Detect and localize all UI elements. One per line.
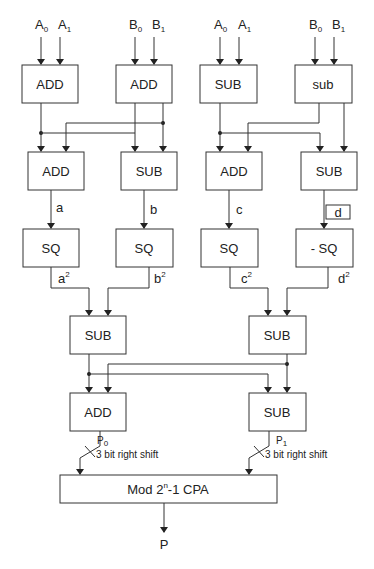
row5-add-block: ADD bbox=[70, 393, 126, 431]
svg-text:Mod 2n-1 CPA: Mod 2n-1 CPA bbox=[127, 481, 209, 497]
svg-text:a: a bbox=[56, 200, 64, 215]
svg-text:B1: B1 bbox=[152, 17, 166, 34]
diagram-canvas: A0 A1 B0 B1 A0 A1 B0 B1 ADD ADD SUB sub bbox=[0, 0, 374, 569]
svg-text:SQ: SQ bbox=[135, 241, 154, 256]
svg-text:SUB: SUB bbox=[316, 164, 343, 179]
row1-sub-b-block: sub bbox=[295, 65, 352, 103]
svg-text:SQ: SQ bbox=[220, 241, 239, 256]
svg-text:B0: B0 bbox=[129, 17, 143, 34]
svg-text:ADD: ADD bbox=[42, 164, 69, 179]
row2-add-a-block: ADD bbox=[28, 152, 84, 190]
svg-text:B1: B1 bbox=[332, 17, 346, 34]
svg-text:3 bit right shift: 3 bit right shift bbox=[265, 449, 327, 460]
svg-text:A0: A0 bbox=[35, 17, 49, 34]
svg-text:SUB: SUB bbox=[264, 405, 291, 420]
input-labels: A0 A1 B0 B1 A0 A1 B0 B1 bbox=[35, 17, 346, 34]
svg-text:SQ: SQ bbox=[42, 241, 61, 256]
svg-text:ADD: ADD bbox=[130, 77, 157, 92]
svg-text:d2: d2 bbox=[338, 270, 350, 286]
shift-tick-left bbox=[85, 446, 95, 457]
svg-text:b: b bbox=[150, 202, 157, 217]
row3-sq-a-block: SQ bbox=[23, 229, 79, 267]
row4-sub-right-block: SUB bbox=[249, 316, 306, 354]
svg-text:SUB: SUB bbox=[215, 77, 242, 92]
row3-sq-c-block: SQ bbox=[201, 229, 258, 267]
shift-wiring: P0 3 bit right shift P1 3 bit right shif… bbox=[80, 431, 327, 474]
svg-text:c: c bbox=[236, 202, 243, 217]
svg-text:ADD: ADD bbox=[84, 405, 111, 420]
svg-text:SUB: SUB bbox=[264, 328, 291, 343]
row2-sub-b-block: SUB bbox=[121, 152, 177, 190]
mod-cpa-block: Mod 2n-1 CPA bbox=[60, 475, 277, 503]
svg-text:c2: c2 bbox=[241, 270, 253, 286]
svg-text:A0: A0 bbox=[214, 17, 228, 34]
svg-text:d: d bbox=[334, 205, 341, 220]
row2-sub-d-block: SUB bbox=[301, 152, 357, 190]
output-label: P bbox=[160, 537, 169, 552]
row3-neg-sq-d-block: - SQ bbox=[296, 229, 353, 267]
svg-text:A1: A1 bbox=[238, 17, 252, 34]
svg-text:- SQ: - SQ bbox=[311, 241, 338, 256]
svg-text:B0: B0 bbox=[309, 17, 323, 34]
svg-text:SUB: SUB bbox=[85, 328, 112, 343]
row5-sub-block: SUB bbox=[249, 393, 306, 431]
svg-text:P1: P1 bbox=[276, 435, 288, 448]
svg-text:SUB: SUB bbox=[136, 164, 163, 179]
row3-sq-b-block: SQ bbox=[116, 229, 173, 267]
row2-to-row3-wiring: a b c d bbox=[51, 190, 350, 228]
svg-text:P0: P0 bbox=[97, 435, 109, 448]
svg-text:a2: a2 bbox=[58, 270, 70, 286]
svg-text:A1: A1 bbox=[58, 17, 72, 34]
row1-add-b-block: ADD bbox=[116, 65, 172, 103]
left-crossbar-wiring bbox=[39, 103, 165, 151]
shift-tick-right bbox=[254, 446, 264, 457]
row1-sub-a-block: SUB bbox=[200, 65, 257, 103]
svg-text:sub: sub bbox=[313, 77, 334, 92]
row3-to-row4-wiring: a2 b2 c2 d2 bbox=[51, 267, 350, 315]
svg-text:ADD: ADD bbox=[220, 164, 247, 179]
svg-text:3 bit right shift: 3 bit right shift bbox=[96, 449, 158, 460]
svg-text:ADD: ADD bbox=[36, 77, 63, 92]
input-arrows bbox=[41, 37, 334, 64]
row4-sub-left-block: SUB bbox=[70, 316, 126, 354]
svg-text:b2: b2 bbox=[154, 270, 166, 286]
row2-add-c-block: ADD bbox=[206, 152, 262, 190]
output-wiring: P bbox=[160, 503, 169, 552]
final-crossbar-wiring bbox=[87, 354, 289, 392]
row1-add-a-block: ADD bbox=[22, 65, 78, 103]
right-crossbar-wiring bbox=[218, 103, 344, 151]
